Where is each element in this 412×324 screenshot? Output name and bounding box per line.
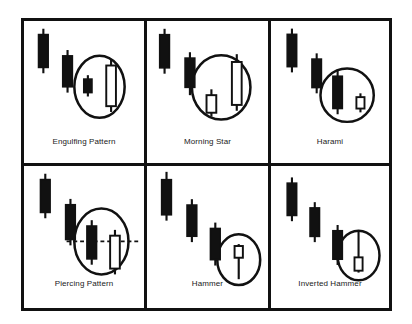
candle-black xyxy=(162,172,172,221)
candle-black xyxy=(187,199,197,242)
candle-body xyxy=(232,62,242,105)
candle-black xyxy=(310,202,320,242)
candle-body xyxy=(84,79,92,93)
candle-body xyxy=(207,95,217,113)
pattern-label-harami: Harami xyxy=(271,137,389,146)
candle-black xyxy=(39,29,49,74)
candle-black xyxy=(84,75,92,96)
candle-body xyxy=(160,35,170,68)
candle-body xyxy=(39,35,49,68)
candle-body xyxy=(187,205,197,236)
pattern-cell-harami: Harami xyxy=(271,21,389,163)
pattern-illustration-inverted-hammer xyxy=(271,166,389,311)
candle-body xyxy=(40,180,50,213)
pattern-cell-morning-star: Morning Star xyxy=(147,21,268,163)
candle-body xyxy=(287,183,297,215)
candle-black xyxy=(87,220,97,265)
pattern-label-piercing-pattern: Piercing Pattern xyxy=(24,279,144,288)
pattern-cell-inverted-hammer: Inverted Hammer xyxy=(271,166,389,311)
candle-black xyxy=(333,70,343,114)
candle-white xyxy=(110,230,120,275)
candle-body xyxy=(333,76,343,108)
candle-body xyxy=(310,208,320,237)
pattern-label-inverted-hammer: Inverted Hammer xyxy=(271,279,389,288)
candle-body xyxy=(287,34,297,66)
candle-black xyxy=(63,50,73,93)
candle-body xyxy=(333,231,343,260)
candle-body xyxy=(185,58,195,87)
pattern-cell-hammer: Hammer xyxy=(147,166,268,311)
candle-body xyxy=(355,257,363,270)
pattern-illustration-hammer xyxy=(147,166,268,311)
candle-black xyxy=(210,223,220,266)
candle-body xyxy=(110,236,120,269)
candle-black xyxy=(333,225,343,265)
candle-body xyxy=(66,205,76,240)
candle-body xyxy=(106,66,116,107)
pattern-label-hammer: Hammer xyxy=(147,279,268,288)
candle-body xyxy=(87,226,97,259)
candle-white xyxy=(106,60,116,112)
candle-black xyxy=(66,199,76,245)
pattern-cell-piercing-pattern: Piercing Pattern xyxy=(24,166,144,311)
candle-body xyxy=(312,59,322,88)
candle-body xyxy=(356,97,364,108)
candle-black xyxy=(287,29,297,73)
candle-body xyxy=(210,228,220,259)
pattern-cell-engulfing-pattern: Engulfing Pattern xyxy=(24,21,144,163)
candle-black xyxy=(312,53,322,93)
pattern-label-morning-star: Morning Star xyxy=(147,137,268,146)
candle-black xyxy=(40,174,50,219)
candlestick-patterns-figure: Engulfing PatternMorning StarHaramiPierc… xyxy=(0,0,412,324)
candle-body xyxy=(235,246,243,258)
candle-black xyxy=(287,177,297,221)
candle-body xyxy=(162,180,172,215)
candle-body xyxy=(63,56,73,87)
pattern-illustration-piercing-pattern xyxy=(24,166,144,311)
candle-white xyxy=(232,54,242,111)
candle-black xyxy=(160,29,170,74)
highlight-ellipse xyxy=(320,69,373,122)
pattern-label-engulfing-pattern: Engulfing Pattern xyxy=(24,137,144,146)
highlight-ellipse xyxy=(74,56,124,118)
